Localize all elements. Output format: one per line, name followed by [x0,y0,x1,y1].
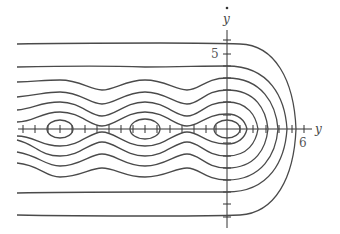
horizontal-axis-label: y [314,122,322,136]
phase-portrait-diagram: y y 5 6 [0,0,340,234]
upper-curves [17,43,296,129]
vertical-axis-label: y [222,12,230,26]
derivative-dot [226,7,229,10]
lower-curves [17,129,296,216]
vertical-tick-label: 5 [211,47,219,61]
horizontal-tick-label: 6 [299,136,307,150]
